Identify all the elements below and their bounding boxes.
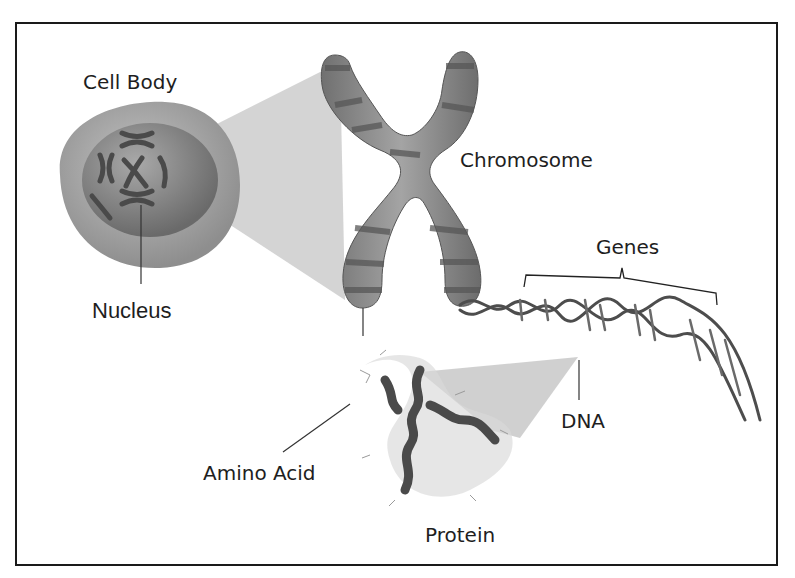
genes-label: Genes	[596, 235, 659, 259]
chromosome-illustration	[321, 52, 481, 336]
chromosome-label: Chromosome	[460, 148, 593, 172]
cell-body-label: Cell Body	[83, 70, 177, 94]
genes-bracket	[524, 268, 717, 305]
amino-acid-label: Amino Acid	[203, 461, 316, 485]
nucleus-label: Nucleus	[92, 298, 171, 324]
protein-label: Protein	[425, 523, 495, 547]
dna-label: DNA	[561, 409, 605, 433]
amino-acid-pointer	[283, 404, 350, 452]
cell-body-illustration	[60, 102, 240, 284]
